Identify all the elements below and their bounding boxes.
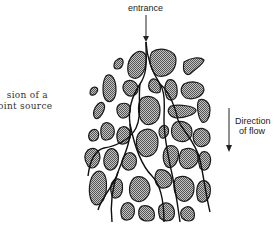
flow-arrow-icon — [226, 108, 232, 152]
porous-media-diagram — [0, 0, 274, 225]
grains — [85, 49, 211, 221]
entrance-arrow-icon — [143, 15, 149, 42]
